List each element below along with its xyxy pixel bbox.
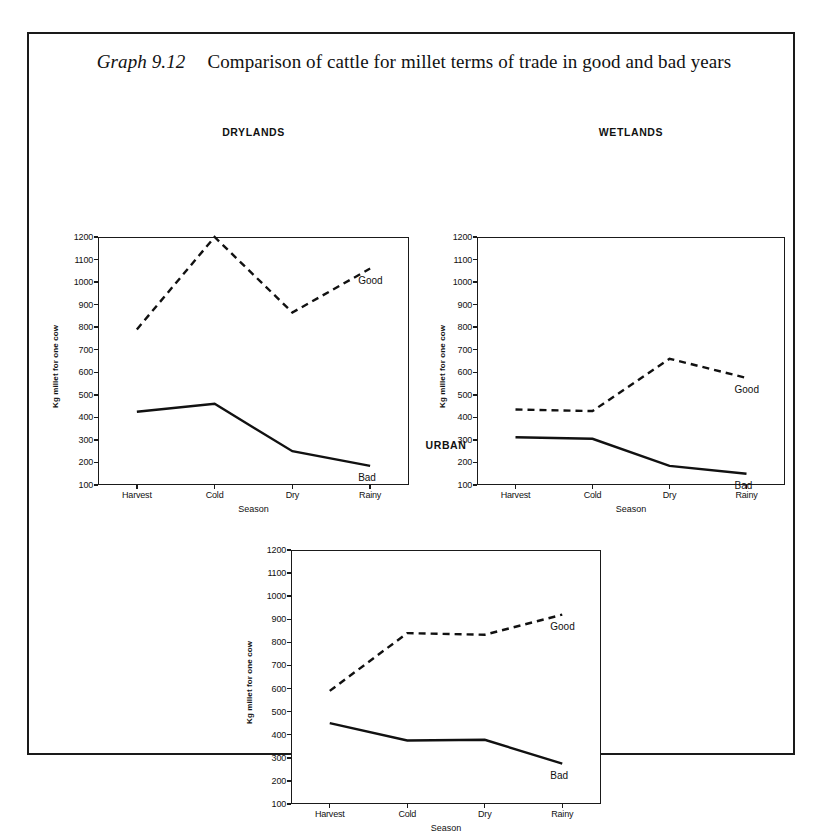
figure-number: Graph 9.12 xyxy=(97,51,186,72)
series-label-good: Good xyxy=(550,621,574,632)
figure-page: Graph 9.12Comparison of cattle for mille… xyxy=(27,32,795,755)
figure-caption: Graph 9.12Comparison of cattle for mille… xyxy=(69,48,759,75)
series-line-good xyxy=(330,615,563,691)
series-label-good: Good xyxy=(735,384,759,395)
series-label-bad: Bad xyxy=(550,770,568,781)
series-label-bad: Bad xyxy=(735,480,753,491)
series-line-good xyxy=(516,359,747,411)
series-line-bad xyxy=(330,723,563,763)
series-label-good: Good xyxy=(358,275,382,286)
chart-urban: URBAN12001100100090080070060050040030020… xyxy=(241,439,609,835)
figure-caption-text: Comparison of cattle for millet terms of… xyxy=(207,51,731,72)
series-line-good xyxy=(137,237,370,329)
